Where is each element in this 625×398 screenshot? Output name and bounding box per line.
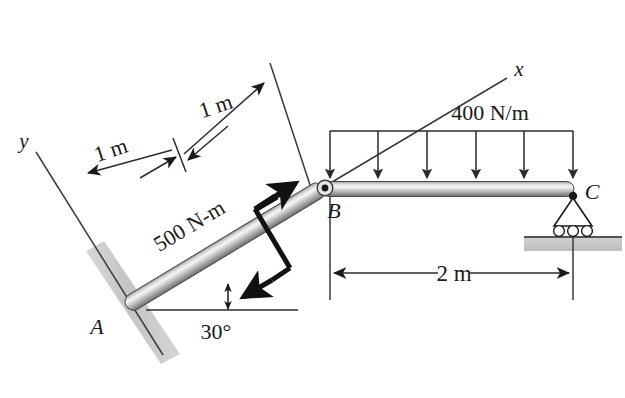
roller-circle	[582, 226, 593, 237]
x-axis-label: x	[513, 57, 524, 81]
member-bc	[322, 182, 574, 197]
member-ab	[122, 180, 328, 313]
dimension-ab: 1 m 1 m	[88, 63, 310, 185]
distributed-load-label: 400 N/m	[451, 100, 529, 125]
statics-figure: y x	[0, 0, 625, 398]
angle-30-indicator: 30°	[146, 284, 298, 344]
roller-circle	[568, 226, 579, 237]
y-axis-label: y	[17, 129, 29, 153]
angle-30-label: 30°	[201, 319, 232, 344]
point-label-c: C	[585, 179, 600, 204]
dimension-arrow-ab2-inner	[188, 126, 228, 160]
pin-joint-b	[317, 180, 333, 196]
dimension-arrow-ab1-inner	[140, 157, 176, 178]
roller-circle	[554, 226, 565, 237]
midpoint-tick	[173, 138, 186, 172]
point-label-a: A	[88, 314, 104, 339]
figure-canvas: y x	[0, 0, 625, 398]
point-label-b: B	[327, 198, 340, 223]
dimension-label-ab1: 1 m	[91, 133, 131, 167]
dimension-label-ab2: 1 m	[196, 89, 236, 123]
distributed-load-400: 400 N/m	[330, 100, 573, 178]
couple-arrow-lower	[243, 280, 272, 297]
dimension-label-bc: 2 m	[436, 261, 471, 286]
extension-line-b	[270, 63, 310, 185]
